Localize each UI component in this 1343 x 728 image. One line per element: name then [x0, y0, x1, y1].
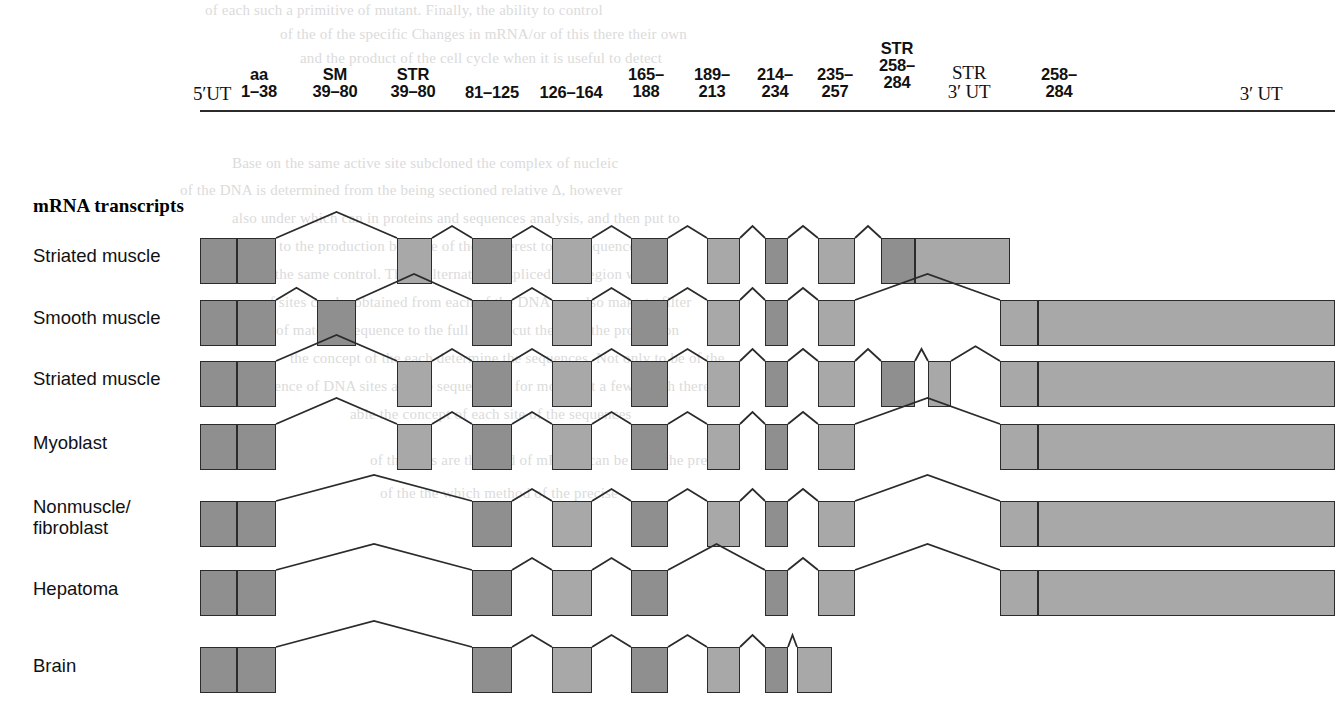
- transcript-exon-box: [765, 647, 788, 693]
- transcript-exon-box: [397, 424, 432, 470]
- transcript-exon-box: [797, 647, 832, 693]
- transcript-exon-box: [237, 570, 276, 616]
- gene-exon-segment: [668, 110, 707, 112]
- transcript-label-brain: Brain: [33, 655, 76, 676]
- transcript-exon-box: [765, 570, 788, 616]
- transcript-exon-box: [237, 300, 276, 346]
- transcript-exon-box: [200, 300, 237, 346]
- transcript-exon-box: [397, 361, 432, 407]
- gene-exon-segment: [276, 110, 317, 112]
- transcript-exon-box: [552, 361, 592, 407]
- gene-exon-segment: [200, 110, 237, 112]
- gene-exon-segment: [765, 110, 788, 112]
- transcript-exon-box: [707, 501, 740, 547]
- transcript-exon-box: [631, 570, 668, 616]
- transcript-exon-box: [552, 238, 592, 284]
- transcript-exon-box: [200, 424, 237, 470]
- transcript-exon-box: [928, 361, 951, 407]
- transcript-exon-box: [818, 238, 855, 284]
- transcript-exon-box: [397, 238, 432, 284]
- exon-label: 3′ UT: [1228, 84, 1294, 103]
- gene-exon-segment: [915, 110, 1000, 112]
- transcript-exon-box: [552, 300, 592, 346]
- transcript-exon-box: [1000, 424, 1038, 470]
- exon-label: STR 39–80: [381, 66, 445, 100]
- exon-label: SM 39–80: [303, 66, 367, 100]
- gene-exon-segment: [740, 110, 765, 112]
- transcript-exon-box: [881, 238, 915, 284]
- transcript-exon-box: [200, 238, 237, 284]
- transcript-exon-box: [237, 647, 276, 693]
- transcript-exon-box: [765, 424, 788, 470]
- transcript-exon-box: [472, 300, 512, 346]
- gene-exon-segment: [237, 110, 276, 112]
- exon-label: 126–164: [533, 84, 609, 101]
- transcript-exon-box: [552, 570, 592, 616]
- transcript-exon-box: [818, 570, 855, 616]
- gene-exon-segment: [432, 110, 472, 112]
- transcript-exon-box: [237, 501, 276, 547]
- transcript-exon-box: [200, 570, 237, 616]
- transcript-exon-box: [1038, 501, 1335, 547]
- transcript-exon-box: [1000, 501, 1038, 547]
- transcript-exon-box: [317, 300, 356, 346]
- mrna-transcripts-heading: mRNA transcripts: [33, 195, 184, 217]
- transcript-exon-box: [765, 238, 788, 284]
- transcript-exon-box: [237, 238, 276, 284]
- transcript-exon-box: [631, 238, 668, 284]
- gene-exon-segment: [707, 110, 740, 112]
- exon-label: 81–125: [458, 84, 526, 101]
- transcript-label-smooth-muscle: Smooth muscle: [33, 307, 161, 328]
- gene-exon-segment: [1038, 110, 1335, 112]
- transcript-exon-box: [552, 424, 592, 470]
- transcript-exon-box: [765, 501, 788, 547]
- transcript-exon-box: [707, 238, 740, 284]
- gene-exon-segment: [631, 110, 668, 112]
- exon-label: 214– 234: [746, 66, 804, 100]
- gene-exon-segment: [818, 110, 855, 112]
- gene-exon-segment: [1000, 110, 1038, 112]
- transcript-exon-box: [200, 647, 237, 693]
- transcript-exon-box: [707, 300, 740, 346]
- gene-exon-segment: [397, 110, 432, 112]
- transcript-exon-box: [881, 361, 915, 407]
- transcript-label-striated-muscle-2: Striated muscle: [33, 368, 161, 389]
- gene-exon-segment: [317, 110, 356, 112]
- gene-exon-segment: [881, 110, 915, 112]
- transcript-exon-box: [631, 647, 668, 693]
- exon-label: STR 3′ UT: [934, 63, 1004, 102]
- exon-label: STR 258– 284: [868, 40, 926, 90]
- transcript-exon-box: [1038, 570, 1335, 616]
- transcript-exon-box: [472, 647, 512, 693]
- gene-exon-segment: [855, 110, 881, 112]
- transcript-exon-box: [631, 424, 668, 470]
- transcript-exon-box: [818, 501, 855, 547]
- exon-label: 258– 284: [1030, 66, 1088, 100]
- transcript-exon-box: [631, 501, 668, 547]
- transcript-exon-box: [552, 501, 592, 547]
- transcript-exon-box: [552, 647, 592, 693]
- transcript-exon-box: [237, 361, 276, 407]
- transcript-exon-box: [631, 361, 668, 407]
- transcript-exon-box: [472, 501, 512, 547]
- transcript-exon-box: [1038, 424, 1335, 470]
- transcript-exon-box: [915, 238, 1010, 284]
- transcript-exon-box: [472, 570, 512, 616]
- transcript-exon-box: [707, 361, 740, 407]
- transcript-exon-box: [472, 424, 512, 470]
- transcript-label-nonmuscle-fibroblast: Nonmuscle/ fibroblast: [33, 496, 131, 539]
- exon-label: aa 1–38: [233, 66, 285, 100]
- transcript-exon-box: [765, 361, 788, 407]
- gene-exon-segment: [592, 110, 631, 112]
- transcript-exon-box: [1000, 570, 1038, 616]
- gene-exon-segment: [356, 110, 397, 112]
- transcript-exon-box: [200, 361, 237, 407]
- transcript-exon-box: [472, 361, 512, 407]
- transcript-label-myoblast: Myoblast: [33, 432, 107, 453]
- exon-label: 235– 257: [806, 66, 864, 100]
- transcript-exon-box: [765, 300, 788, 346]
- gene-exon-segment: [788, 110, 818, 112]
- transcript-exon-box: [818, 424, 855, 470]
- transcript-label-striated-muscle-1: Striated muscle: [33, 245, 161, 266]
- transcript-label-hepatoma: Hepatoma: [33, 578, 118, 599]
